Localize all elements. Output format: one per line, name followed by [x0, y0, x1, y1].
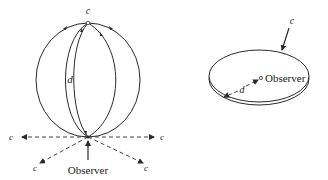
sphere-diagram: c d c c c c Observer [9, 5, 164, 176]
observer-label-right: Observer [265, 72, 306, 84]
light-ray-lower-right [88, 137, 143, 163]
diagram: c d c c c c Observer c d Observer [0, 0, 328, 180]
diagram-canvas: c d c c c c Observer c d Observer [0, 0, 328, 180]
sphere-outline [36, 23, 140, 137]
edge-c-label: c [290, 15, 295, 26]
disk-diagram: c d Observer [209, 15, 309, 105]
light-ray-lower-left [40, 137, 88, 163]
c-label-lower-right: c [144, 163, 148, 173]
top-c-label: c [86, 5, 91, 16]
meridian-left-inner [74, 23, 88, 137]
observer-point-right [259, 76, 262, 79]
c-label-right: c [160, 132, 164, 142]
c-label-lower-left: c [33, 163, 37, 173]
c-label-left: c [9, 132, 13, 142]
top-pole-dot [86, 21, 90, 25]
edge-arrow-icon [282, 28, 289, 50]
observer-label-left: Observer [68, 164, 109, 176]
distance-d-label: d [67, 73, 73, 85]
arrow-icon [100, 32, 103, 36]
meridian-right [88, 23, 116, 137]
